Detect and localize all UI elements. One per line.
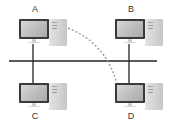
tower-icon [49,19,67,46]
node-label-a: A [28,4,42,14]
node-label-d: D [124,111,138,121]
tower-icon [49,83,67,110]
monitor-icon [115,19,145,39]
computer-a [19,19,73,51]
monitor-icon [115,83,145,103]
node-label-b: B [124,4,138,14]
monitor-icon [19,19,49,39]
dashed-arrow-a-to-d [68,28,118,88]
tower-icon [145,83,163,110]
node-label-c: C [28,111,42,121]
computer-b [115,19,169,51]
tower-icon [145,19,163,46]
network-diagram: A B C D [0,0,170,126]
monitor-icon [19,83,49,103]
